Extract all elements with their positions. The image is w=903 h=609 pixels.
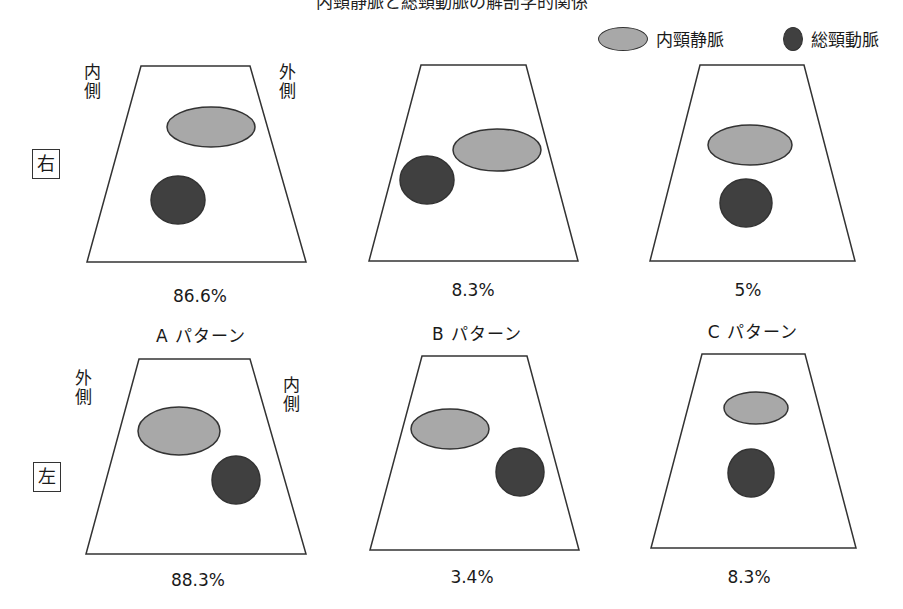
left-side-box: 左: [33, 462, 61, 492]
diagram-left-c: [651, 354, 856, 548]
label-char: 外: [73, 369, 93, 388]
label-char: 側: [281, 395, 301, 414]
vein-ellipse: [167, 107, 255, 147]
neck-trapezoid: [87, 66, 306, 262]
artery-circle: [728, 449, 774, 497]
neck-trapezoid: [86, 359, 306, 554]
label-char: 内: [281, 376, 301, 395]
artery-circle: [212, 456, 260, 504]
medial-label-right: 内 側: [82, 63, 102, 101]
pct-left-c: 8.3%: [689, 567, 809, 587]
right-side-box: 右: [32, 149, 60, 179]
pattern-c-label: C パターン: [683, 318, 823, 343]
lateral-label-left: 外 側: [73, 369, 93, 407]
neck-trapezoid: [370, 356, 579, 550]
diagram-left-a: [86, 359, 306, 554]
artery-circle: [496, 448, 544, 496]
medial-label-left: 内 側: [281, 376, 301, 414]
pct-left-b: 3.4%: [412, 567, 532, 587]
label-char: 側: [82, 82, 102, 101]
artery-circle: [151, 176, 205, 224]
vein-ellipse: [708, 125, 792, 165]
vein-ellipse: [138, 407, 220, 455]
pattern-a-label: A パターン: [131, 322, 271, 347]
vein-ellipse: [453, 129, 541, 171]
label-char: 内: [82, 63, 102, 82]
lateral-label-right: 外 側: [277, 63, 297, 101]
artery-circle: [720, 179, 772, 227]
artery-circle: [400, 156, 454, 204]
vein-ellipse: [411, 409, 489, 449]
vein-ellipse: [724, 392, 788, 424]
diagram-right-c: [650, 65, 855, 261]
cross-section-diagrams: [0, 0, 903, 609]
diagram-left-b: [370, 356, 579, 550]
label-char: 側: [73, 388, 93, 407]
pattern-b-label: B パターン: [407, 320, 547, 345]
pct-right-c: 5%: [688, 280, 808, 300]
label-char: 側: [277, 82, 297, 101]
diagram-right-a: [87, 66, 306, 262]
pct-left-a: 88.3%: [138, 570, 258, 590]
label-char: 外: [277, 63, 297, 82]
pct-right-b: 8.3%: [413, 280, 533, 300]
diagram-right-b: [369, 65, 578, 261]
pct-right-a: 86.6%: [140, 286, 260, 306]
